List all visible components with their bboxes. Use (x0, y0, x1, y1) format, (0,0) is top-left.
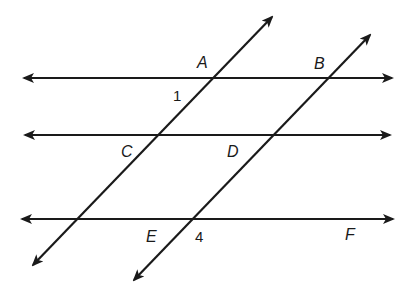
point-label-f: F (345, 226, 356, 243)
point-label-c: C (121, 143, 133, 160)
parallel-lines-diagram: A B 1 C D E 4 F (0, 0, 416, 289)
point-label-b: B (314, 55, 325, 72)
point-label-d: D (227, 143, 239, 160)
point-label-e: E (146, 228, 157, 245)
angle-label-4: 4 (195, 228, 203, 245)
point-label-a: A (196, 54, 208, 71)
angle-label-1: 1 (173, 87, 181, 104)
transversal-BDE-arrow-line (134, 35, 370, 280)
